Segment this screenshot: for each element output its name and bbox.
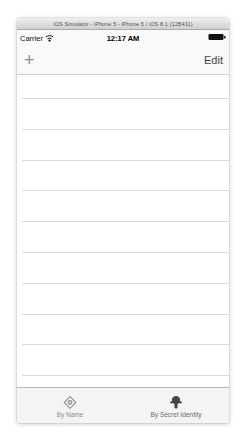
table-row (22, 191, 229, 222)
status-bar: Carrier 12:17 AM (17, 30, 229, 46)
table-row (22, 222, 229, 253)
tab-bar: By Name By Secret Identity (17, 387, 229, 423)
table-row (22, 315, 229, 346)
edit-button[interactable]: Edit (203, 54, 224, 66)
table-row (22, 345, 229, 376)
table-row (22, 99, 229, 130)
secret-identity-mask-icon (168, 395, 184, 410)
desktop-background: iOS Simulator - iPhone 5 - iPhone 5 / iO… (0, 0, 246, 437)
table-row (22, 284, 229, 315)
status-right (208, 33, 226, 43)
diamond-emblem-icon (62, 395, 78, 410)
battery-icon (208, 33, 226, 43)
table-view[interactable] (17, 75, 229, 387)
tab-label: By Secret Identity (151, 411, 202, 418)
carrier-label: Carrier (20, 34, 43, 43)
add-button[interactable]: + (22, 51, 37, 69)
table-row (22, 161, 229, 192)
status-left: Carrier (20, 33, 54, 44)
wifi-icon (45, 34, 54, 44)
tab-by-secret-identity[interactable]: By Secret Identity (123, 388, 229, 423)
table-row (22, 253, 229, 284)
window-titlebar[interactable]: iOS Simulator - iPhone 5 - iPhone 5 / iO… (17, 18, 229, 30)
navigation-bar: + Edit (17, 46, 229, 75)
window-title: iOS Simulator - iPhone 5 - iPhone 5 / iO… (53, 21, 192, 27)
tab-label: By Name (57, 411, 84, 418)
simulator-window: iOS Simulator - iPhone 5 - iPhone 5 / iO… (17, 18, 229, 423)
table-row (22, 130, 229, 161)
tab-by-name[interactable]: By Name (17, 388, 123, 423)
table-row (22, 75, 229, 99)
